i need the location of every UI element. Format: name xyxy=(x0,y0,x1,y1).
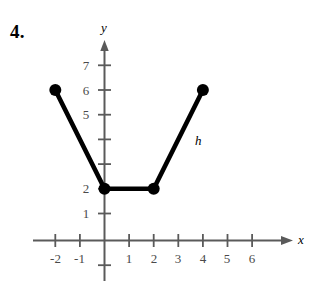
y-tick-label-2: 2 xyxy=(79,182,93,195)
x-tick-label-5: 5 xyxy=(220,252,234,265)
problem-number: 4. xyxy=(10,22,25,41)
x-tick-label-3: 3 xyxy=(171,252,185,265)
point-0-2 xyxy=(99,183,111,195)
y-tick-label-7: 7 xyxy=(79,59,93,72)
y-tick-label-5: 5 xyxy=(79,108,93,121)
curve-label-h: h xyxy=(195,134,202,147)
point-2-2 xyxy=(148,183,160,195)
y-axis-arrowhead xyxy=(100,40,108,51)
point-neg2-6 xyxy=(49,84,61,96)
x-tick-label-4: 4 xyxy=(196,252,210,265)
x-tick-label-neg2: -2 xyxy=(46,252,65,265)
coordinate-plane-svg xyxy=(0,0,316,287)
y-tick-label-6: 6 xyxy=(79,84,93,97)
x-tick-label-neg1: -1 xyxy=(70,252,89,265)
curve-h-path xyxy=(55,90,203,189)
x-tick-label-6: 6 xyxy=(245,252,259,265)
x-axis-label: x xyxy=(298,233,304,246)
x-tick-label-2: 2 xyxy=(147,252,161,265)
point-4-6 xyxy=(197,84,209,96)
graph-figure: 4. xyxy=(0,0,316,287)
y-tick-label-1: 1 xyxy=(79,207,93,220)
x-tick-label-1: 1 xyxy=(122,252,136,265)
x-axis-arrowhead xyxy=(281,236,293,245)
y-axis-label: y xyxy=(101,21,107,34)
curve-h-points xyxy=(49,84,209,195)
